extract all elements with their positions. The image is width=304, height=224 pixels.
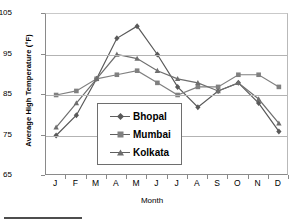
square-data-marker bbox=[74, 89, 79, 94]
legend-label-mumbai: Mumbai bbox=[133, 130, 171, 140]
legend-item-mumbai: Mumbai bbox=[98, 126, 181, 144]
square-data-marker bbox=[196, 85, 201, 90]
legend-label-bhopal: Bhopal bbox=[133, 112, 167, 122]
triangle-data-marker bbox=[155, 68, 160, 73]
y-tick-label: 105 bbox=[0, 9, 12, 17]
gridline bbox=[46, 55, 287, 56]
square-data-marker bbox=[256, 72, 261, 77]
y-tick-label: 85 bbox=[0, 90, 12, 98]
square-data-marker bbox=[135, 68, 140, 73]
square-data-marker bbox=[115, 72, 120, 77]
chart-legend: Bhopal Mumbai Kolkata bbox=[97, 103, 182, 165]
legend-label-kolkata: Kolkata bbox=[133, 148, 169, 158]
square-marker-icon bbox=[110, 129, 130, 141]
legend-item-bhopal: Bhopal bbox=[98, 108, 181, 126]
footer-rule bbox=[4, 217, 82, 219]
triangle-marker-icon bbox=[110, 147, 130, 159]
gridline bbox=[46, 95, 287, 96]
diamond-data-marker bbox=[114, 35, 119, 41]
y-tick-mark bbox=[41, 54, 45, 55]
y-tick-label: 75 bbox=[0, 131, 12, 139]
y-tick-label: 65 bbox=[0, 171, 12, 179]
y-axis-title: Average High Temperature (°F) bbox=[24, 11, 33, 171]
y-tick-label: 95 bbox=[0, 50, 12, 58]
y-tick-mark bbox=[41, 94, 45, 95]
x-tick-label: D bbox=[266, 179, 290, 188]
diamond-marker-icon bbox=[110, 111, 130, 123]
square-data-marker bbox=[155, 81, 160, 86]
line-chart: Average High Temperature (°F) Month Bhop… bbox=[0, 0, 304, 224]
square-data-marker bbox=[277, 85, 282, 90]
y-tick-mark bbox=[41, 175, 45, 176]
y-tick-mark bbox=[41, 135, 45, 136]
x-axis-title: Month bbox=[0, 196, 304, 205]
x-tick-mark bbox=[288, 175, 289, 179]
square-data-marker bbox=[236, 72, 241, 77]
legend-item-kolkata: Kolkata bbox=[98, 144, 181, 162]
y-tick-mark bbox=[41, 13, 45, 14]
